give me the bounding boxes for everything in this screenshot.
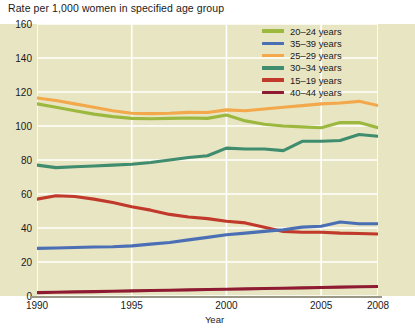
y-axis-tick-20: 20 (2, 257, 32, 268)
legend-swatch-icon (262, 78, 284, 82)
legend-label: 25–29 years (290, 50, 342, 61)
legend-label: 15–19 years (290, 75, 342, 86)
legend-swatch-icon (262, 91, 284, 95)
legend-label: 20–24 years (290, 26, 342, 37)
line-30–34-years (37, 135, 378, 168)
x-axis-line (30, 296, 382, 298)
x-axis-tick-2000: 2000 (215, 300, 237, 311)
legend-label: 35–39 years (290, 38, 342, 49)
legend: 20–24 years35–39 years25–29 years30–34 y… (262, 26, 342, 97)
line-25–29-years (37, 98, 378, 114)
chart-root: Rate per 1,000 women in specified age gr… (0, 0, 415, 331)
y-axis-tick-100: 100 (2, 121, 32, 132)
y-axis-tick-60: 60 (2, 189, 32, 200)
legend-swatch-icon (262, 54, 284, 58)
x-axis-tick-2005: 2005 (310, 300, 332, 311)
chart-title: Rate per 1,000 women in specified age gr… (8, 2, 224, 14)
legend-swatch-icon (262, 42, 284, 46)
legend-swatch-icon (262, 29, 284, 33)
x-axis-tick-2008: 2008 (367, 300, 389, 311)
legend-label: 30–34 years (290, 62, 342, 73)
legend-item-4[interactable]: 15–19 years (262, 75, 342, 85)
legend-swatch-icon (262, 66, 284, 70)
legend-label: 40–44 years (290, 87, 342, 98)
legend-item-2[interactable]: 25–29 years (262, 51, 342, 61)
x-axis-title: Year (0, 314, 415, 325)
x-axis-title-label: Year (205, 314, 224, 325)
line-40–44-years (37, 286, 378, 292)
x-axis-tick-1990: 1990 (26, 300, 48, 311)
y-axis-tick-40: 40 (2, 223, 32, 234)
legend-item-1[interactable]: 35–39 years (262, 38, 342, 48)
y-axis-tick-80: 80 (2, 155, 32, 166)
legend-item-0[interactable]: 20–24 years (262, 26, 342, 36)
y-axis-tick-120: 120 (2, 87, 32, 98)
line-35–39-years (37, 222, 378, 248)
legend-item-3[interactable]: 30–34 years (262, 63, 342, 73)
y-axis-tick-160: 160 (2, 19, 32, 30)
y-axis-tick-140: 140 (2, 53, 32, 64)
legend-item-5[interactable]: 40–44 years (262, 87, 342, 97)
x-axis-tick-1995: 1995 (121, 300, 143, 311)
